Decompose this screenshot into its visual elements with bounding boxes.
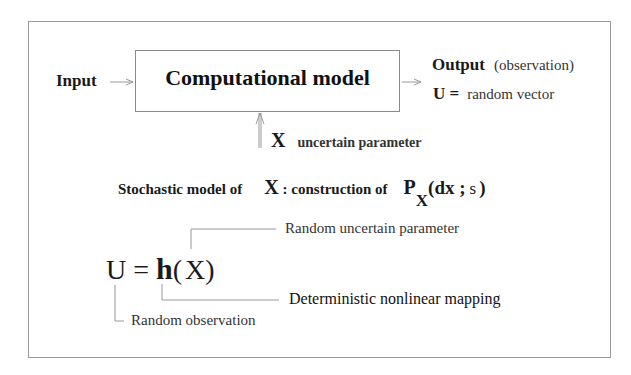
probability-args-close: ) — [479, 177, 485, 198]
leader-line-observation — [115, 285, 124, 321]
equation-argument: X — [185, 254, 205, 285]
equation-open-paren: ( — [173, 254, 182, 285]
annotation-random-observation: Random observation — [131, 312, 256, 329]
output-arrow-icon — [402, 79, 421, 85]
input-arrow-icon — [110, 79, 133, 85]
parameter-symbol: X — [271, 129, 285, 151]
uncertain-parameter-label: X uncertain parameter — [271, 129, 421, 152]
output-definition-text: random vector — [467, 86, 554, 102]
model-box-label: Computational model — [136, 65, 399, 91]
output-note: (observation) — [494, 57, 574, 73]
input-label: Input — [56, 71, 97, 91]
parameter-up-arrow-icon — [256, 113, 264, 148]
model-equation: U = h(X) — [106, 252, 215, 286]
stochastic-prefix: Stochastic model of — [118, 181, 242, 197]
leader-line-mapping — [162, 284, 279, 300]
probability-subscript: X — [416, 191, 428, 210]
annotation-random-uncertain-parameter: Random uncertain parameter — [285, 220, 459, 237]
output-heading: Output (observation) — [432, 55, 574, 75]
computational-model-box: Computational model — [135, 50, 400, 112]
probability-symbol: P — [404, 176, 416, 198]
output-symbol: U = — [433, 84, 459, 103]
probability-args: (dx ; — [428, 177, 465, 198]
stochastic-symbol: X — [264, 176, 278, 198]
output-definition: U = random vector — [433, 84, 554, 104]
parameter-text: uncertain parameter — [297, 135, 421, 150]
equation-lhs: U — [106, 254, 126, 285]
probability-arg-s: s — [470, 179, 477, 198]
equation-equals: = — [133, 254, 149, 285]
stochastic-middle: : construction of — [283, 181, 388, 197]
annotation-deterministic-mapping: Deterministic nonlinear mapping — [289, 290, 501, 308]
equation-close-paren: ) — [205, 254, 214, 285]
output-label: Output — [432, 55, 485, 74]
equation-function: h — [156, 252, 173, 285]
stochastic-model-line: Stochastic model of X : construction of … — [118, 176, 486, 199]
leader-line-parameter — [191, 229, 276, 249]
